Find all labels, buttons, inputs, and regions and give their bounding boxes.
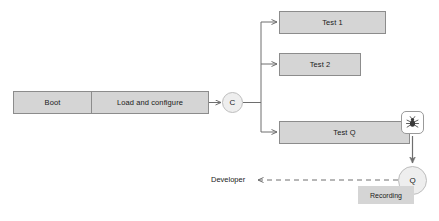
node-test-1[interactable]: Test 1 xyxy=(279,11,386,34)
diagram-canvas: Boot Load and configure C Test 1 Test 2 … xyxy=(0,0,439,221)
node-controller-label: C xyxy=(230,98,236,107)
bug-badge[interactable] xyxy=(401,111,424,134)
node-controller[interactable]: C xyxy=(222,92,243,113)
node-recording-label: Recording xyxy=(370,192,402,199)
node-load-configure-label: Load and configure xyxy=(117,98,183,107)
bug-icon xyxy=(405,115,420,130)
node-boot-label: Boot xyxy=(45,98,61,107)
node-boot[interactable]: Boot xyxy=(14,92,92,113)
node-test-2-label: Test 2 xyxy=(310,60,331,69)
node-test-1-label: Test 1 xyxy=(322,18,343,27)
node-queue-label: Q xyxy=(409,176,415,185)
node-test-2[interactable]: Test 2 xyxy=(279,53,361,76)
node-developer: Developer xyxy=(211,175,245,184)
node-developer-label: Developer xyxy=(211,175,245,184)
node-recording[interactable]: Recording xyxy=(358,186,414,204)
node-test-q[interactable]: Test Q xyxy=(279,121,410,144)
pipeline-bar: Boot Load and configure xyxy=(13,91,209,114)
node-test-q-label: Test Q xyxy=(333,128,355,137)
node-load-configure[interactable]: Load and configure xyxy=(92,92,208,113)
